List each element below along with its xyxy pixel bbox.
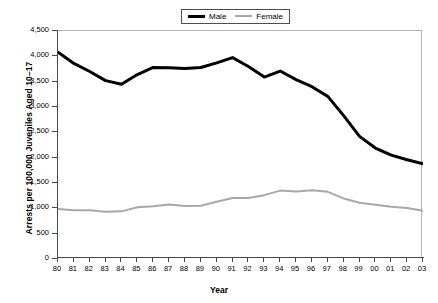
x-axis-tick-label: 92 <box>243 264 251 273</box>
x-axis-tick-mark <box>184 258 185 262</box>
x-axis-tick-mark <box>390 258 391 262</box>
x-axis: 8081828384858687888990919293949596979899… <box>0 258 438 303</box>
x-axis-tick-label: 99 <box>354 264 362 273</box>
x-axis-tick-label: 95 <box>291 264 299 273</box>
x-axis-tick-mark <box>422 258 423 262</box>
chart-figure: Male Female Arrests per 100,000 Juvenile… <box>0 0 438 303</box>
x-axis-tick-mark <box>359 258 360 262</box>
x-axis-tick-mark <box>343 258 344 262</box>
legend-item-female: Female <box>235 12 283 21</box>
x-axis-tick-mark <box>279 258 280 262</box>
x-axis-tick-label: 93 <box>259 264 267 273</box>
x-axis-tick-mark <box>216 258 217 262</box>
x-axis-tick-label: 88 <box>180 264 188 273</box>
x-axis-tick-mark <box>73 258 74 262</box>
x-axis-tick-label: 83 <box>100 264 108 273</box>
x-axis-tick-mark <box>232 258 233 262</box>
x-axis-tick-label: 84 <box>116 264 124 273</box>
x-axis-tick-mark <box>295 258 296 262</box>
x-axis-tick-mark <box>200 258 201 262</box>
x-axis-tick-label: 03 <box>418 264 426 273</box>
legend-swatch-male-icon <box>188 15 205 18</box>
x-axis-tick-label: 86 <box>148 264 156 273</box>
y-axis-tick-label: 2,000 <box>30 153 49 161</box>
x-axis-tick-label: 01 <box>386 264 394 273</box>
x-axis-tick-mark <box>168 258 169 262</box>
x-axis-tick-mark <box>120 258 121 262</box>
series-canvas <box>58 31 423 259</box>
x-axis-tick-label: 00 <box>370 264 378 273</box>
x-axis-tick-mark <box>247 258 248 262</box>
y-axis-tick-label: 4,500 <box>30 26 49 34</box>
plot-area <box>57 30 422 258</box>
y-axis-tick-label: 3,500 <box>30 77 49 85</box>
x-axis-tick-mark <box>136 258 137 262</box>
x-axis-tick-mark <box>406 258 407 262</box>
series-line-female <box>58 190 423 211</box>
x-axis-tick-mark <box>152 258 153 262</box>
legend-item-male: Male <box>188 12 226 21</box>
legend-label-female: Female <box>256 12 283 21</box>
x-axis-tick-label: 85 <box>132 264 140 273</box>
x-axis-tick-label: 80 <box>53 264 61 273</box>
x-axis-tick-mark <box>89 258 90 262</box>
x-axis-tick-mark <box>57 258 58 262</box>
series-line-male <box>58 52 423 163</box>
y-axis-tick-label: 4,000 <box>30 51 49 59</box>
legend-swatch-female-icon <box>235 15 252 17</box>
x-axis-tick-label: 96 <box>307 264 315 273</box>
x-axis-tick-mark <box>105 258 106 262</box>
x-axis-tick-label: 90 <box>212 264 220 273</box>
x-axis-tick-label: 87 <box>164 264 172 273</box>
y-axis-tick-label: 1,500 <box>30 178 49 186</box>
y-axis-tick-label: 2,500 <box>30 127 49 135</box>
x-axis-tick-mark <box>263 258 264 262</box>
x-axis-tick-label: 89 <box>196 264 204 273</box>
x-axis-tick-mark <box>311 258 312 262</box>
x-axis-tick-label: 02 <box>402 264 410 273</box>
chart-legend: Male Female <box>181 9 290 24</box>
x-axis-tick-label: 98 <box>338 264 346 273</box>
x-axis-title: Year <box>0 285 438 295</box>
x-axis-tick-mark <box>327 258 328 262</box>
y-axis-tick-label: 500 <box>36 229 49 237</box>
x-axis-tick-label: 81 <box>69 264 77 273</box>
y-axis-tick-label: 1,000 <box>30 203 49 211</box>
x-axis-tick-mark <box>374 258 375 262</box>
x-axis-tick-label: 97 <box>323 264 331 273</box>
y-axis-tick-label: 3,000 <box>30 102 49 110</box>
legend-label-male: Male <box>209 12 226 21</box>
x-axis-tick-label: 94 <box>275 264 283 273</box>
x-axis-tick-label: 91 <box>227 264 235 273</box>
x-axis-tick-label: 82 <box>85 264 93 273</box>
